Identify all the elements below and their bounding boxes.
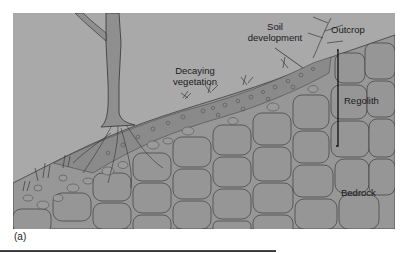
label-outcrop: Outcrop [331, 25, 365, 35]
label-decaying-vegetation-line1: Decaying [165, 66, 225, 76]
label-bedrock: Bedrock [341, 188, 376, 198]
label-soil-development-line1: Soil [253, 22, 297, 32]
label-regolith: Regolith [344, 96, 379, 106]
tree-branch [75, 13, 106, 41]
panel-label: (a) [14, 231, 26, 242]
weathering-diagram: Outcrop Soil development Decaying vegeta… [13, 13, 395, 229]
cross-section-illustration [13, 13, 395, 229]
label-decaying-vegetation-line2: vegetation [165, 77, 225, 87]
soil-leader-line [275, 48, 303, 68]
divider-line [0, 250, 276, 252]
label-soil-development-line2: development [238, 33, 312, 43]
tree-trunk [101, 13, 135, 127]
